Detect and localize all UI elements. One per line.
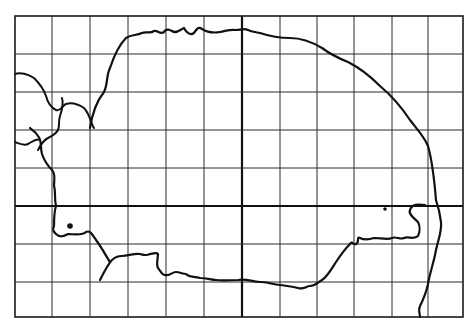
distribution-map [0, 0, 475, 330]
record-east-dot [383, 207, 387, 211]
record-west-dot [67, 223, 73, 229]
